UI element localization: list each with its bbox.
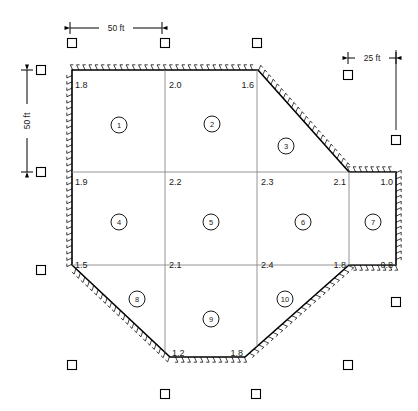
hatch-tick xyxy=(277,84,279,86)
cell-number-label: 1 xyxy=(117,121,121,130)
hatch-tick xyxy=(72,272,74,274)
dimension-top-horizontal: 50 ft xyxy=(65,22,168,34)
hatch-tick xyxy=(333,285,335,287)
hatch-tick xyxy=(323,293,325,295)
hatch-tick xyxy=(265,70,267,72)
hatch-tick xyxy=(298,107,300,109)
hatch-tick xyxy=(323,135,325,137)
survey-marker xyxy=(68,361,77,370)
hatch-tick xyxy=(331,144,333,146)
dimension-arrow xyxy=(396,56,402,60)
cell-number-label: 2 xyxy=(210,120,214,129)
survey-marker xyxy=(253,39,262,48)
elevation-label: 2.1 xyxy=(333,177,346,187)
dimension-arrow xyxy=(25,65,29,71)
hatch-tick xyxy=(290,322,292,324)
dimension-right-horizontal: 25 ft xyxy=(343,52,402,64)
elevation-label: 1.8 xyxy=(230,348,243,358)
hatch-tick xyxy=(347,272,349,274)
survey-marker xyxy=(344,71,353,80)
hatch-tick xyxy=(337,280,339,282)
cell-number-label: 8 xyxy=(135,295,139,304)
survey-marker xyxy=(392,298,401,307)
elevation-label: 2.2 xyxy=(169,177,182,187)
dimension-arrow xyxy=(25,172,29,178)
dimension-label: 50 ft xyxy=(108,23,125,33)
survey-marker xyxy=(344,361,353,370)
hatch-tick xyxy=(290,98,292,100)
hatch-tick xyxy=(335,149,337,151)
hatch-tick xyxy=(81,280,83,282)
hatch-tick xyxy=(103,301,105,303)
dimension-arrow xyxy=(162,26,168,30)
elevation-label: 2.3 xyxy=(261,177,274,187)
elevation-label: 2.1 xyxy=(169,260,182,270)
cell-number-label: 7 xyxy=(371,218,375,227)
hatch-tick xyxy=(327,139,329,141)
hatch-tick xyxy=(309,305,311,307)
hatch-tick xyxy=(257,351,259,353)
hatch-tick xyxy=(139,335,141,337)
boundary-polygon xyxy=(72,70,396,357)
hatch-tick xyxy=(314,301,316,303)
hatch-tick xyxy=(161,356,163,358)
hatch-tick xyxy=(125,322,127,324)
hatch-tick xyxy=(165,360,167,362)
elevation-label: 1.0 xyxy=(380,177,393,187)
cell-number-8: 8 xyxy=(129,291,145,307)
hatch-tick xyxy=(108,306,110,308)
cell-number-6: 6 xyxy=(295,214,311,230)
hatch-tick xyxy=(112,310,114,312)
survey-marker xyxy=(68,39,77,48)
hatch-tick xyxy=(348,163,350,165)
hatch-tick xyxy=(304,310,306,312)
hatch-tick xyxy=(130,326,132,328)
hatch-tick xyxy=(121,318,123,320)
survey-marker xyxy=(392,136,401,145)
survey-marker xyxy=(161,39,170,48)
hatch-tick xyxy=(262,347,264,349)
hatch-tick xyxy=(286,93,288,95)
elevation-label: 1.8 xyxy=(333,260,346,270)
hatch-tick xyxy=(148,343,150,345)
hatch-tick xyxy=(271,339,273,341)
hatch-tick xyxy=(76,276,78,278)
survey-marker xyxy=(161,390,170,399)
elevation-label: 1.9 xyxy=(75,177,88,187)
survey-marker xyxy=(252,390,261,399)
earthwork-grid-drawing: 50 ft50 ft25 ft 1.82.01.61.92.22.32.11.0… xyxy=(0,0,418,411)
dimension-arrow xyxy=(65,26,71,30)
hatch-tick xyxy=(294,102,296,104)
hatch-tick xyxy=(281,88,283,90)
hatch-tick xyxy=(306,116,308,118)
survey-marker xyxy=(37,168,46,177)
cell-number-label: 5 xyxy=(209,218,213,227)
hatch-tick xyxy=(94,293,96,295)
hatch-tick xyxy=(318,297,320,299)
hatch-tick xyxy=(261,65,263,67)
cell-number-4: 4 xyxy=(111,214,127,230)
elevation-label: 2.4 xyxy=(261,260,274,270)
dimension-label: 50 ft xyxy=(22,112,32,129)
hatch-tick xyxy=(285,326,287,328)
hatch-tick xyxy=(273,79,275,81)
cell-number-10: 10 xyxy=(277,291,293,307)
cell-number-label: 10 xyxy=(281,295,289,304)
hatch-tick xyxy=(157,352,159,354)
hatch-tick xyxy=(342,276,344,278)
elevation-label: 2.0 xyxy=(169,80,182,90)
elevation-label: 0.8 xyxy=(380,260,393,270)
hatch-tick xyxy=(328,289,330,291)
hatch-tick xyxy=(152,347,154,349)
hatch-tick xyxy=(319,130,321,132)
hatch-tick xyxy=(344,158,346,160)
hatch-tick xyxy=(339,153,341,155)
hatch-tick xyxy=(252,356,254,358)
cell-number-7: 7 xyxy=(365,214,381,230)
elevation-label: 1.2 xyxy=(172,348,185,358)
dimension-arrow xyxy=(343,56,349,60)
cell-number-9: 9 xyxy=(203,311,219,327)
cell-number-label: 6 xyxy=(301,218,305,227)
hatch-tick xyxy=(134,331,136,333)
hatch-tick xyxy=(90,289,92,291)
